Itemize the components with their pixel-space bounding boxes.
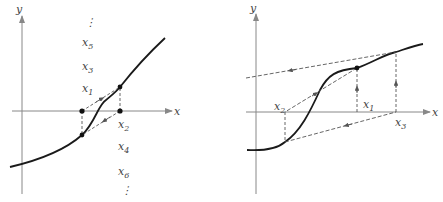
left-y-axis-label: y xyxy=(15,3,23,16)
left-diagram: x y ⋮ x5 x3 x1 x2 x4 x6 ⋮ xyxy=(10,3,181,197)
right-label-x1: x1 xyxy=(363,98,374,113)
left-x-axis-label: x xyxy=(174,105,181,118)
left-ellipsis-top: ⋮ xyxy=(85,16,96,29)
right-label-x2: x2 xyxy=(274,100,285,115)
left-curve xyxy=(10,38,165,167)
right-label-x3: x3 xyxy=(395,116,406,131)
left-label-x3: x3 xyxy=(82,60,93,75)
left-label-x1: x1 xyxy=(82,82,93,97)
left-label-x4: x4 xyxy=(118,140,129,155)
point-x2 xyxy=(117,108,122,113)
left-ellipsis-bottom: ⋮ xyxy=(121,184,132,197)
left-label-x6: x6 xyxy=(118,165,129,180)
left-label-x2: x2 xyxy=(118,118,129,133)
right-point-f-x1 xyxy=(355,66,360,71)
right-curve xyxy=(247,44,423,150)
right-x-axis-label: x xyxy=(432,106,439,119)
left-label-x5: x5 xyxy=(82,36,93,51)
point-f-x2 xyxy=(118,85,123,90)
point-x1 xyxy=(79,108,84,113)
right-y-axis-label: y xyxy=(249,2,257,15)
point-f-x1 xyxy=(80,133,85,138)
right-diagram: x y x2 x1 x3 xyxy=(246,2,439,194)
